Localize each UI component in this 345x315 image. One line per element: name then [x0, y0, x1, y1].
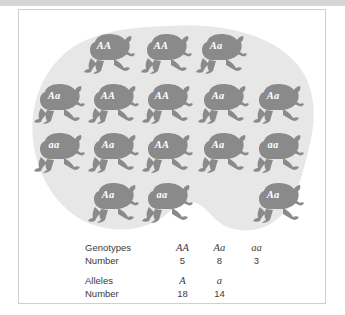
genotypes-row-label: Genotypes: [85, 242, 164, 255]
frog-individual: aa: [31, 129, 85, 173]
table-row-spacer: [85, 267, 275, 275]
frog-individual: AA: [81, 30, 135, 74]
frog-individual: Aa: [85, 179, 139, 223]
genotype-count-aa: 3: [238, 255, 275, 268]
table-row-allele-numbers: Number 18 14: [85, 288, 275, 301]
frog-individual: aa: [139, 179, 193, 223]
allele-number-row-label: Number: [85, 288, 164, 301]
allele-count-A: 18: [164, 288, 201, 301]
allele-header-A: A: [164, 275, 201, 288]
frog-individual: AA: [139, 80, 193, 124]
allele-count-empty: [238, 288, 275, 301]
frog-individual: Aa: [195, 80, 249, 124]
genotype-header-aa: aa: [238, 242, 275, 255]
genotype-count-Aa: 8: [201, 255, 238, 268]
frog-individual: Aa: [193, 30, 247, 74]
alleles-row-label: Alleles: [85, 275, 164, 288]
frog-individual: Aa: [85, 129, 139, 173]
frog-individual: Aa: [195, 129, 249, 173]
genotype-allele-table: Genotypes AA Aa aa Number 5 8 3 Alleles …: [85, 242, 275, 300]
frog-individual: Aa: [250, 179, 304, 223]
genotype-count-AA: 5: [164, 255, 201, 268]
frog-individual: Aa: [250, 80, 304, 124]
allele-count-a: 14: [201, 288, 238, 301]
frog-individual: Aa: [31, 80, 85, 124]
frog-individual: AA: [138, 30, 192, 74]
genotype-number-row-label: Number: [85, 255, 164, 268]
genotype-header-Aa: Aa: [201, 242, 238, 255]
table-row-alleles: Alleles A a: [85, 275, 275, 288]
top-gray-strip: [0, 0, 345, 6]
allele-header-a: a: [201, 275, 238, 288]
frog-individual: AA: [85, 80, 139, 124]
frog-individual: aa: [250, 129, 304, 173]
allele-header-empty: [238, 275, 275, 288]
genotype-header-AA: AA: [164, 242, 201, 255]
figure-frame: AA AA: [18, 9, 326, 304]
table-row-genotype-numbers: Number 5 8 3: [85, 255, 275, 268]
table-row-genotypes: Genotypes AA Aa aa: [85, 242, 275, 255]
frog-individual: AA: [139, 129, 193, 173]
frog-grid: AA AA: [19, 10, 326, 240]
